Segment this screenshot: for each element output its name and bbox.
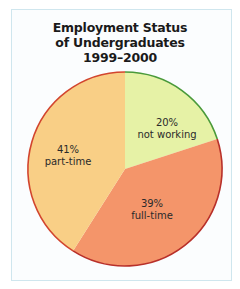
slice-pct-full-time: 39% [131,198,173,210]
slice-text-part-time: part-time [45,156,92,168]
slice-text-full-time: full-time [131,210,173,222]
slice-label-not-working: 20% not working [137,117,196,141]
slice-pct-not-working: 20% [137,117,196,129]
pie-slices [28,72,222,266]
pie-chart [0,0,240,289]
slice-text-not-working: not working [137,129,196,141]
slice-label-part-time: 41% part-time [45,144,92,168]
slice-pct-part-time: 41% [45,144,92,156]
slice-label-full-time: 39% full-time [131,198,173,222]
